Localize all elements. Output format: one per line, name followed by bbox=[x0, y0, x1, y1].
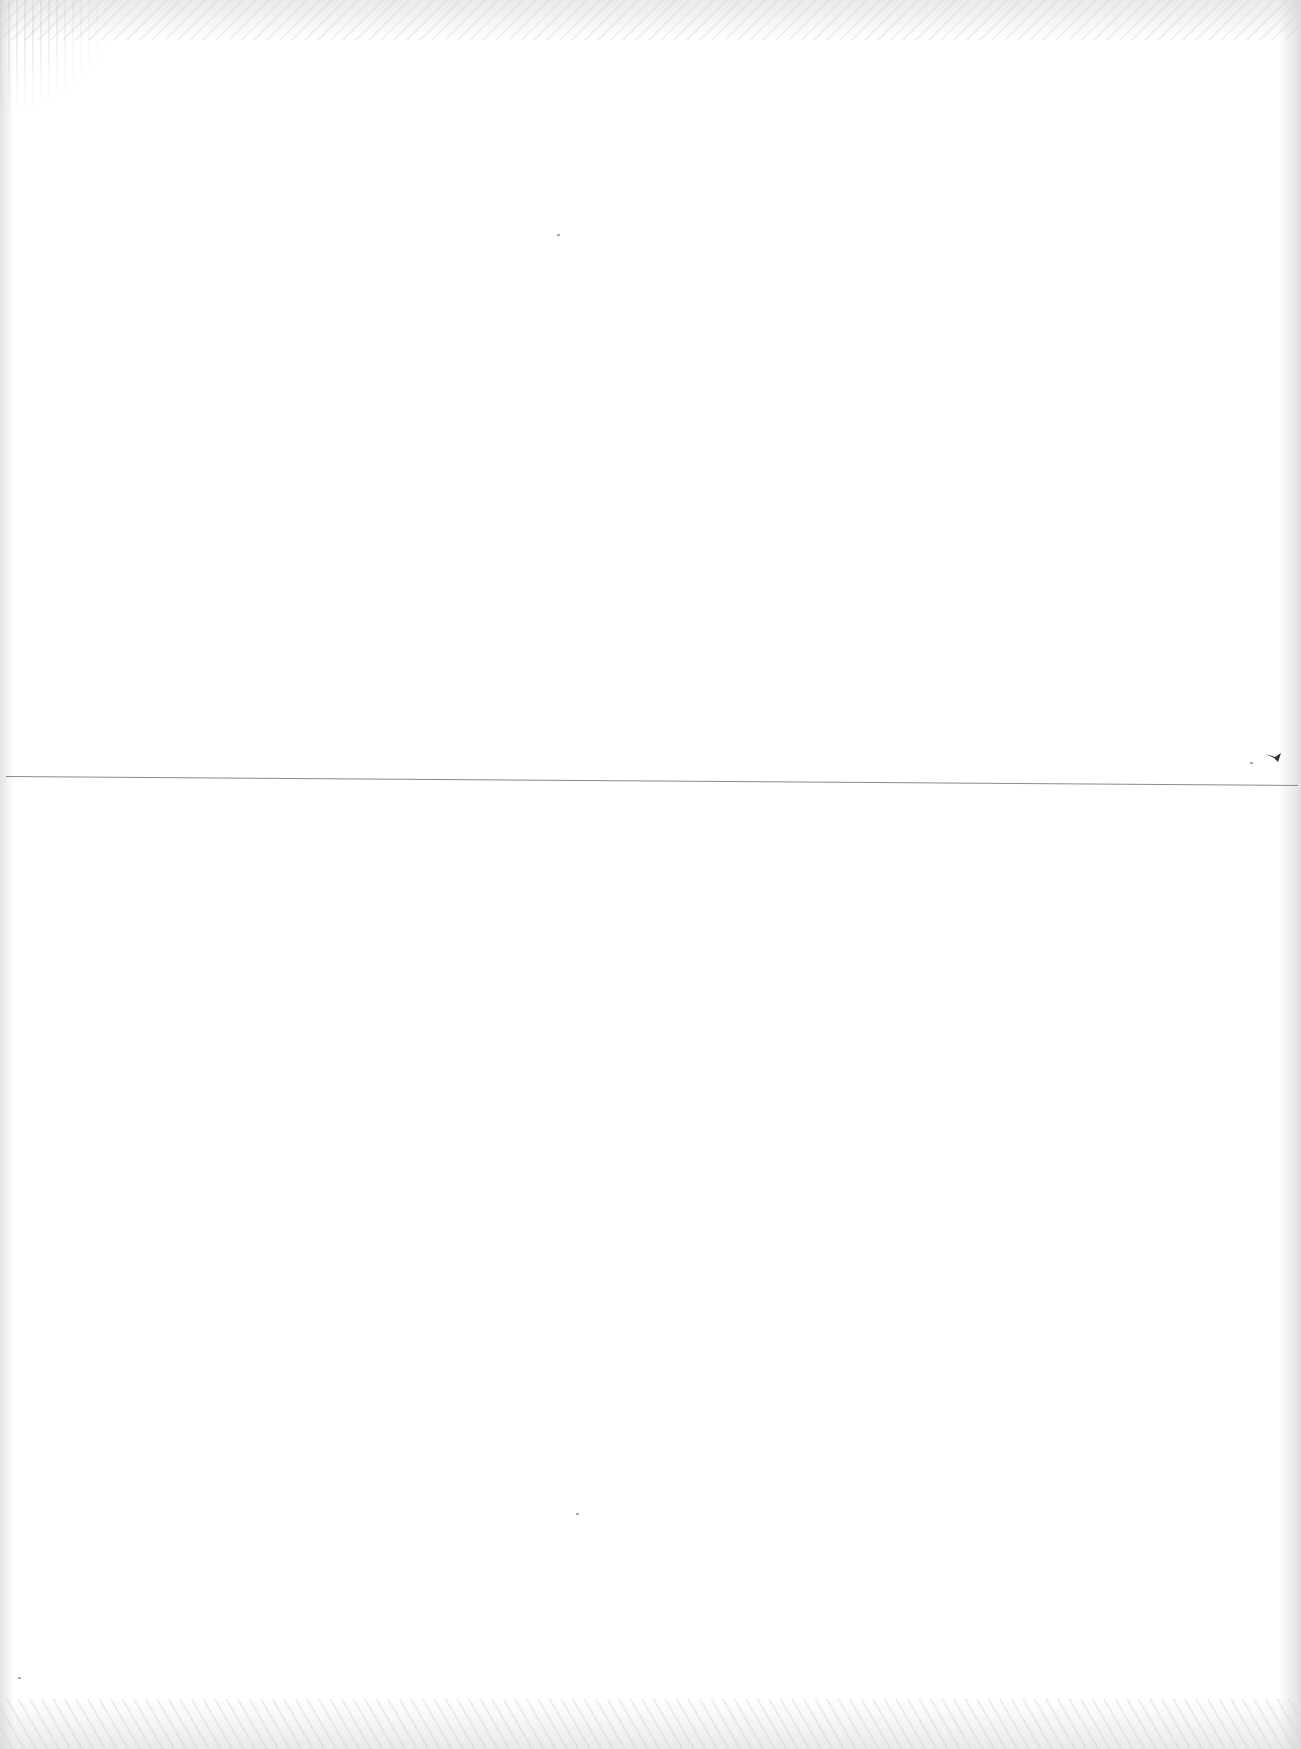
ink-mark-icon bbox=[1265, 752, 1283, 764]
dust-speck bbox=[576, 1513, 579, 1515]
scanned-page bbox=[0, 0, 1301, 1749]
dust-speck bbox=[557, 234, 560, 236]
dust-speck bbox=[1250, 762, 1253, 764]
dust-speck bbox=[18, 1677, 21, 1679]
scan-edge-right bbox=[1279, 0, 1301, 1749]
horizontal-rule bbox=[6, 776, 1298, 786]
paper-texture-corner bbox=[0, 0, 110, 110]
scan-edge-top bbox=[0, 0, 1301, 40]
scan-edge-left bbox=[0, 0, 14, 1749]
scan-edge-bottom bbox=[0, 1699, 1301, 1749]
